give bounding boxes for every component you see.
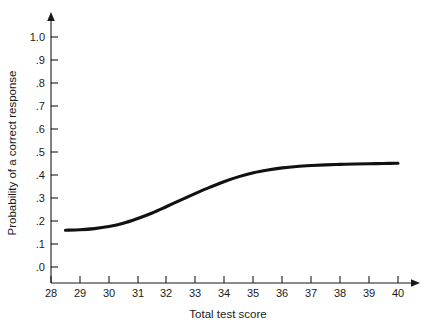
x-tick-label: 29 xyxy=(74,287,86,299)
x-tick-label: 28 xyxy=(45,287,57,299)
x-tick-label: 35 xyxy=(247,287,259,299)
y-tick-label: .2 xyxy=(36,215,45,227)
x-tick-label: 30 xyxy=(103,287,115,299)
chart-figure: 1.0 .9 .8 .7 .6 .5 .4 .3 .2 .1 .0 xyxy=(0,0,433,331)
x-tick-label: 31 xyxy=(132,287,144,299)
chart-background xyxy=(0,0,433,331)
y-tick-label: .6 xyxy=(36,123,45,135)
x-tick-label: 34 xyxy=(218,287,230,299)
y-tick-label: 1.0 xyxy=(30,31,45,43)
y-tick-label: .7 xyxy=(36,100,45,112)
x-tick-label: 40 xyxy=(392,287,404,299)
y-tick-label: .8 xyxy=(36,77,45,89)
y-tick-label: .3 xyxy=(36,192,45,204)
x-tick-label: 33 xyxy=(189,287,201,299)
x-axis-title: Total test score xyxy=(189,308,266,320)
x-tick-label: 38 xyxy=(334,287,346,299)
y-tick-label: .5 xyxy=(36,146,45,158)
x-tick-label: 39 xyxy=(363,287,375,299)
x-tick-label: 36 xyxy=(276,287,288,299)
x-tick-label: 37 xyxy=(305,287,317,299)
chart-svg: 1.0 .9 .8 .7 .6 .5 .4 .3 .2 .1 .0 xyxy=(0,0,433,331)
y-tick-label: .4 xyxy=(36,169,45,181)
x-tick-label: 32 xyxy=(160,287,172,299)
y-tick-label: .0 xyxy=(36,261,45,273)
y-tick-label: .9 xyxy=(36,54,45,66)
y-axis-title: Probability of a correct response xyxy=(6,71,18,236)
y-tick-label: .1 xyxy=(36,238,45,250)
